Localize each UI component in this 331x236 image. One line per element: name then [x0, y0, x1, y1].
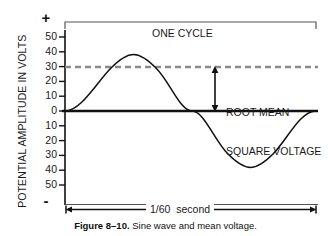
negative-polarity-sign: - — [38, 193, 54, 208]
y-tick-label-pos-20: 20 — [33, 75, 57, 86]
y-tick-label-neg-40: 40 — [33, 164, 57, 175]
y-tick-label-pos-10: 10 — [33, 90, 57, 101]
positive-polarity-sign: + — [38, 10, 54, 25]
rms-voltage-label-line1: ROOT MEAN — [226, 106, 321, 119]
figure-container: POTENTIAL AMPLITUDE IN VOLTS + - 50 40 3… — [0, 0, 331, 236]
period-label: 1/60 second — [146, 204, 214, 215]
rms-measure-arrow — [212, 66, 219, 112]
one-cycle-label: ONE CYCLE — [152, 28, 213, 39]
y-tick-label-pos-40: 40 — [33, 46, 57, 57]
y-tick-label-neg-10: 10 — [33, 120, 57, 131]
y-tick-label-pos-50: 50 — [33, 31, 57, 42]
rms-voltage-label-line2: SQUARE VOLTAGE — [226, 145, 321, 158]
y-tick-label-pos-30: 30 — [33, 61, 57, 72]
figure-caption: Figure 8–10. Sine wave and mean voltage. — [0, 220, 331, 231]
figure-caption-number: Figure 8–10. — [74, 220, 129, 231]
y-tick-label-neg-50: 50 — [33, 179, 57, 190]
y-tick-label-zero: 0 — [33, 105, 57, 116]
y-tick-label-neg-30: 30 — [33, 149, 57, 160]
figure-caption-text: Sine wave and mean voltage. — [130, 220, 257, 231]
y-tick-label-neg-20: 20 — [33, 135, 57, 146]
rms-voltage-label: ROOT MEAN SQUARE VOLTAGE — [226, 80, 321, 184]
y-axis-title: POTENTIAL AMPLITUDE IN VOLTS — [17, 31, 28, 211]
